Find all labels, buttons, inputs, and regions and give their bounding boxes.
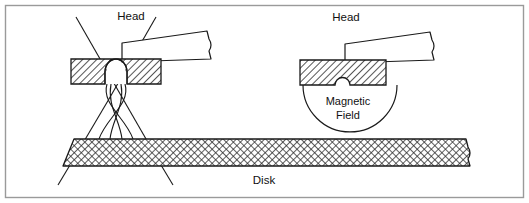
suspension-arm [122, 31, 211, 62]
magnetic-field-label-line1: Magnetic [326, 95, 371, 107]
figure-border [6, 6, 524, 198]
head-label-left: Head [117, 10, 145, 22]
diagram-figure: Head Head Magnetic Field Disk [0, 0, 529, 203]
left-flux-curve-group [99, 84, 133, 139]
disk-medium [63, 139, 470, 166]
head-label-right: Head [332, 11, 360, 23]
diagram-canvas: Head Head Magnetic Field Disk [0, 0, 529, 203]
magnetic-field-label-line2: Field [336, 109, 360, 121]
head-core-right [300, 60, 386, 85]
disk-label: Disk [253, 174, 276, 186]
magnetic-flux-line [58, 165, 70, 185]
suspension-arm [345, 32, 434, 63]
head-gap-left [106, 62, 126, 84]
magnetic-flux-line [161, 165, 173, 185]
